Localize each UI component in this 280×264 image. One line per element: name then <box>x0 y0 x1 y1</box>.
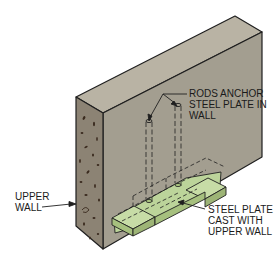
upper-wall-leader <box>42 202 76 208</box>
label-steel-plate: STEEL PLATE CAST WITH UPPER WALL <box>208 204 273 237</box>
label-rods-line-1: RODS ANCHOR <box>189 88 263 99</box>
label-rods-line-2: STEEL PLATE IN <box>189 99 267 110</box>
label-upper-wall: UPPER WALL <box>15 191 49 213</box>
wall-end-section <box>76 97 103 249</box>
label-steel-plate-line-3: UPPER WALL <box>208 226 273 237</box>
label-steel-plate-line-2: CAST WITH <box>208 215 263 226</box>
label-rods-line-3: WALL <box>189 110 216 121</box>
label-upper-wall-line-2: WALL <box>15 202 42 213</box>
label-steel-plate-line-1: STEEL PLATE <box>208 204 273 215</box>
wall-anchor-diagram: RODS ANCHOR STEEL PLATE IN WALL UPPER WA… <box>0 0 280 264</box>
label-upper-wall-line-1: UPPER <box>15 191 49 202</box>
